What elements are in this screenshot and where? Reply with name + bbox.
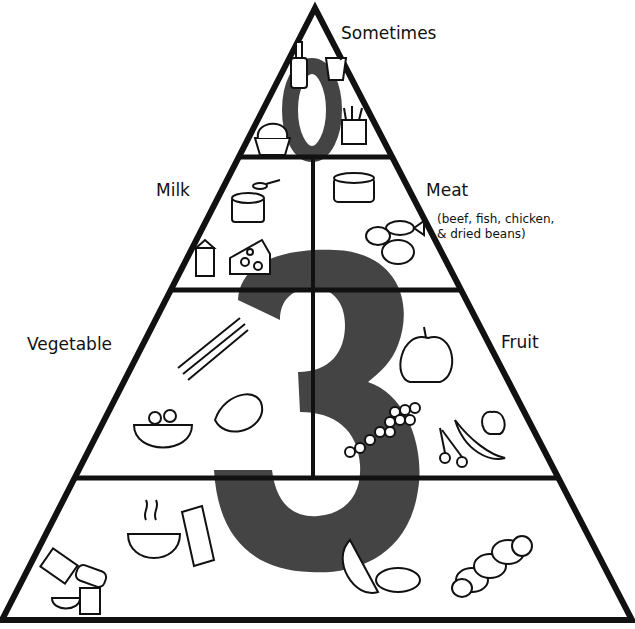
- cereal-bowl-icon: [52, 598, 80, 609]
- cereal-box-icon: [80, 588, 100, 614]
- label-meat-sub-line2: & dried beans): [437, 227, 526, 242]
- milk-carton-icon: [196, 240, 214, 276]
- tortilla-icon: [376, 568, 420, 592]
- asparagus-icon: [178, 318, 248, 380]
- salad-bowl-icon: [134, 410, 192, 448]
- small-apple-icon: [482, 412, 505, 434]
- label-fruit: Fruit: [501, 332, 539, 352]
- pyramid-graphic: [0, 0, 635, 629]
- beans-icon: [382, 240, 414, 264]
- label-milk: Milk: [156, 180, 190, 200]
- label-meat-sub-line1: (beef, fish, chicken,: [437, 212, 554, 227]
- cheese-icon: [230, 240, 270, 274]
- spoon-icon: [253, 180, 280, 189]
- crackers-icon: [40, 548, 77, 583]
- french-fries-icon: [342, 106, 366, 144]
- food-pyramid-diagram: Sometimes Milk Meat (beef, fish, chicken…: [0, 0, 635, 629]
- fish-icon: [386, 221, 424, 235]
- yogurt-icon: [232, 193, 264, 222]
- label-meat: Meat: [426, 180, 468, 200]
- milk-pouring-carton-icon: [182, 506, 214, 566]
- tuna-can-icon: [334, 173, 374, 202]
- bread-loaf-icon: [74, 563, 108, 588]
- braided-bread-icon: [452, 536, 532, 597]
- label-sometimes: Sometimes: [341, 23, 436, 43]
- oatmeal-bowl-icon: [128, 500, 180, 558]
- chicken-icon: [366, 227, 390, 245]
- lettuce-icon: [215, 394, 262, 431]
- label-vegetable: Vegetable: [27, 334, 112, 354]
- ice-cream-icon: [255, 124, 290, 155]
- apple-icon: [400, 327, 452, 382]
